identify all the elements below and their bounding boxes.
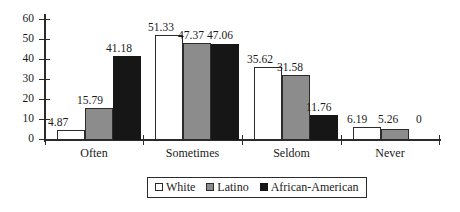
legend-label-white: White: [166, 180, 195, 194]
legend-swatch-white-icon: [155, 183, 163, 191]
legend-item-white: White: [155, 180, 195, 194]
bar-never-latino: [381, 129, 409, 140]
bar-often-african-american: [113, 56, 141, 140]
y-tick-label-40: 40: [8, 53, 34, 64]
bar-sometimes-white: [155, 35, 183, 140]
bar-sometimes-african-american: [211, 44, 239, 140]
value-label-seldom-white: 35.62: [247, 53, 273, 65]
legend-label-african-american: African-American: [271, 180, 359, 194]
y-tick-label-0: 0: [8, 133, 34, 144]
bar-never-white: [353, 127, 381, 140]
value-label-sometimes-latino: 47.37: [178, 29, 204, 41]
category-label-sometimes: Sometimes: [143, 146, 242, 160]
value-label-never-african-american: 0: [416, 113, 422, 125]
value-label-often-african-american: 41.18: [106, 42, 132, 54]
value-label-seldom-african-american: 11.76: [306, 101, 331, 113]
y-tick-label-20: 20: [8, 93, 34, 104]
bar-often-white: [57, 130, 85, 140]
y-tick-label-30: 30: [8, 73, 34, 84]
y-tick-label-10: 10: [8, 113, 34, 124]
value-label-sometimes-african-american: 47.06: [207, 29, 233, 41]
legend-item-african-american: African-American: [260, 180, 359, 194]
plot-area: 4.87 15.79 41.18 51.33 47.37 47.06 35.62…: [44, 18, 440, 140]
y-tick-label-50: 50: [8, 33, 34, 44]
value-label-often-latino: 15.79: [77, 94, 103, 106]
value-label-never-latino: 5.26: [378, 113, 398, 125]
legend-swatch-african-american-icon: [260, 183, 268, 191]
category-label-often: Often: [45, 146, 143, 160]
bar-sometimes-latino: [183, 43, 211, 140]
bar-seldom-white: [254, 67, 282, 140]
bar-chart: 60 50 40 30 20 10 0 4.87 15.79 41.18 51.…: [0, 0, 460, 212]
value-label-never-white: 6.19: [347, 113, 367, 125]
category-label-seldom: Seldom: [242, 146, 341, 160]
value-label-often-white: 4.87: [48, 116, 68, 128]
bar-seldom-african-american: [310, 115, 338, 140]
legend-item-latino: Latino: [206, 180, 248, 194]
legend: White Latino African-American: [147, 177, 367, 198]
category-label-never: Never: [341, 146, 439, 160]
legend-label-latino: Latino: [217, 180, 248, 194]
bar-often-latino: [85, 108, 113, 140]
value-label-seldom-latino: 31.58: [277, 61, 303, 73]
legend-swatch-latino-icon: [206, 183, 214, 191]
y-tick-label-60: 60: [8, 13, 34, 24]
value-label-sometimes-white: 51.33: [148, 21, 174, 33]
